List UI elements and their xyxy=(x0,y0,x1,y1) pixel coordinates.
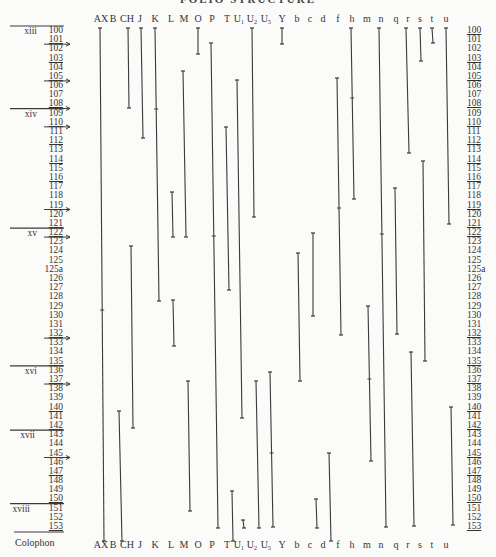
leaf-span-U1 xyxy=(241,520,246,528)
conjugate-arrow-icon xyxy=(44,456,70,460)
leaf-span-f xyxy=(349,28,356,199)
leaf-span-P xyxy=(209,43,220,528)
leaf-span-Y xyxy=(280,28,284,44)
conjugate-arrow-icon xyxy=(44,42,70,46)
leaf-span-U2 xyxy=(250,28,256,217)
folio-structure-page: FOLIO STRUCTURE AXBCHJKLMOPTU₁U₂U₅Ybcdfh… xyxy=(0,0,496,557)
conjugate-arrow-icon xyxy=(44,208,70,212)
leaf-span-s xyxy=(421,161,427,361)
leaf-span-U2 xyxy=(254,381,261,528)
leaf-span-B xyxy=(117,411,124,541)
leaf-span-Y xyxy=(296,253,302,381)
leaf-span-AX xyxy=(98,28,106,541)
leaf-span-O xyxy=(196,28,200,54)
conjugate-arrow-icon xyxy=(44,382,70,386)
leaf-span-c xyxy=(327,453,333,541)
leaf-span-n xyxy=(393,188,399,334)
leaf-span-u xyxy=(444,28,451,224)
leaf-span-m xyxy=(377,28,388,527)
leaf-span-b xyxy=(314,499,319,528)
leaf-span-b xyxy=(311,233,315,316)
leaf-span-r xyxy=(404,28,411,153)
leaf-span-t xyxy=(430,28,435,43)
leaf-span-L xyxy=(170,192,175,237)
leaf-span-J xyxy=(139,28,145,138)
leaf-span-M xyxy=(186,381,192,511)
leaf-span-T xyxy=(224,127,231,290)
folio-structure-diagram xyxy=(0,0,496,557)
leaf-span-u xyxy=(449,407,455,525)
conjugate-arrow-icon xyxy=(44,125,70,129)
leaf-span-U1 xyxy=(235,80,244,418)
leaf-span-h xyxy=(366,306,373,461)
conjugate-arrow-icon xyxy=(44,336,70,340)
leaf-span-M xyxy=(181,71,188,237)
leaf-span-d xyxy=(335,78,343,335)
leaf-span-CH xyxy=(126,28,131,108)
leaf-span-L xyxy=(171,300,176,346)
conjugate-arrow-icon xyxy=(44,235,70,239)
conjugate-arrow-icon xyxy=(44,79,70,83)
leaf-span-K xyxy=(153,28,161,301)
leaf-span-U5 xyxy=(268,372,275,527)
leaf-span-T xyxy=(230,491,235,541)
leaf-span-CH xyxy=(129,246,135,428)
leaf-span-q xyxy=(409,352,416,526)
leaf-span-s xyxy=(418,28,423,61)
